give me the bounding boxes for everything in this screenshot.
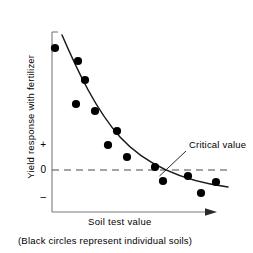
data-point — [104, 141, 112, 149]
data-point — [151, 163, 159, 171]
x-axis-label: Soil test value — [88, 217, 152, 227]
fitted-response-curve — [62, 35, 228, 187]
data-point — [72, 100, 80, 108]
critical-value-annotation: Critical value — [189, 140, 246, 150]
x-axis-arrow-icon — [205, 208, 217, 216]
y-tick-label-positive: + — [32, 140, 46, 150]
data-point — [74, 57, 82, 65]
data-point — [81, 76, 89, 84]
data-point — [123, 153, 131, 161]
data-point — [197, 189, 205, 197]
data-point — [159, 177, 167, 185]
data-point — [113, 127, 121, 135]
data-point — [184, 172, 192, 180]
data-point — [212, 178, 220, 186]
figure-caption: (Black circles represent individual soil… — [18, 236, 192, 246]
data-point — [51, 44, 59, 52]
y-tick-label-negative: – — [32, 192, 46, 202]
data-point — [91, 107, 99, 115]
y-tick-label-zero: 0 — [32, 165, 46, 175]
chart-figure: Yield response with fertilizer + 0 – Soi… — [0, 0, 253, 253]
